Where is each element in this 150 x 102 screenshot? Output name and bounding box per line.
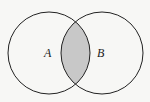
venn-diagram: A B bbox=[0, 0, 150, 102]
set-a-label: A bbox=[43, 46, 52, 60]
set-b-label: B bbox=[97, 46, 105, 60]
